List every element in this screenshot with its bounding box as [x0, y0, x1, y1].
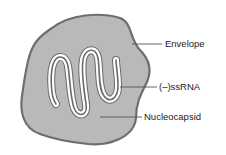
virus-diagram: Envelope (–)ssRNA Nucleocapsid: [0, 0, 226, 155]
envelope-label: Envelope: [165, 38, 205, 49]
rna-label: (–)ssRNA: [159, 81, 201, 92]
nucleocapsid-label: Nucleocapsid: [144, 111, 201, 122]
